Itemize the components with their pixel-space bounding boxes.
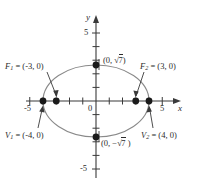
label-covertex-bottom: (0, −√7 ) <box>101 139 131 148</box>
label-focus-1-value: = (-3, 0) <box>13 61 43 71</box>
label-focus-2: F2 = (3, 0) <box>140 62 176 72</box>
label-covertex-top-close: ) <box>123 55 126 65</box>
label-covertex-bottom-close: ) <box>126 138 131 148</box>
x-axis-label: x <box>178 104 182 113</box>
y-tick-label-5: 5 <box>84 28 88 37</box>
x-tick-label-5: 5 <box>160 104 164 113</box>
label-covertex-bottom-open: (0, − <box>101 138 117 148</box>
point-v2 <box>146 98 153 105</box>
label-vertex-1: V1 = (-4, 0) <box>5 131 44 141</box>
label-vertex-1-value: = (-4, 0) <box>13 130 43 140</box>
ellipse-figure: F1 = (-3, 0) F2 = (3, 0) V1 = (-4, 0) V2… <box>0 0 203 193</box>
point-top-covertex <box>93 62 100 69</box>
label-covertex-top-open: (0, <box>103 55 114 65</box>
x-tick-label-neg5: -5 <box>24 104 31 113</box>
origin-label: 0 <box>88 104 92 113</box>
y-axis-arrow-icon <box>93 15 99 23</box>
point-v1 <box>40 98 47 105</box>
label-covertex-top: (0, √7) <box>103 56 126 65</box>
ellipse-graph-svg <box>0 0 203 193</box>
label-focus-1: F1 = (-3, 0) <box>5 62 44 72</box>
label-vertex-2-value: = (4, 0) <box>149 130 176 140</box>
y-tick-label-neg5: -5 <box>80 164 87 173</box>
y-axis-label: y <box>86 13 90 22</box>
point-f1 <box>53 98 60 105</box>
label-focus-2-value: = (3, 0) <box>148 61 175 71</box>
point-bottom-covertex <box>93 134 100 141</box>
point-f2 <box>132 98 139 105</box>
label-vertex-2: V2 = (4, 0) <box>141 131 177 141</box>
